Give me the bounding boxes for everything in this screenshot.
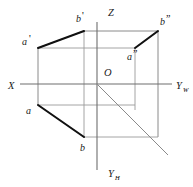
origin-label: O	[104, 67, 112, 78]
x-axis-label: X	[7, 80, 15, 91]
vertex-label-a-double-prime-mark: ”	[133, 48, 137, 59]
coordinate-axes	[20, 22, 172, 170]
vertex-label-a-prime-mark: '	[29, 33, 31, 44]
descriptive-geometry-figure: X Z Y W Y H O a ' b ' b ” a ” a	[0, 0, 193, 187]
vertex-label-a-double-prime-letter: a	[127, 51, 132, 62]
vertex-label-b-prime: b '	[76, 10, 84, 24]
yw-axis-label-group: Y W	[176, 80, 189, 93]
vertex-label-b-prime-mark: '	[82, 10, 84, 21]
yw-axis-subscript: W	[183, 86, 189, 93]
vertex-label-a-double-prime: a ”	[127, 48, 137, 62]
yh-axis-label-group: Y H	[108, 168, 120, 181]
profile-projection-ab	[135, 31, 158, 48]
vertex-label-b-horizontal: b	[80, 142, 85, 153]
geometry-canvas: X Z Y W Y H O a ' b ' b ” a ” a	[0, 0, 193, 187]
yh-axis-subscript: H	[114, 174, 120, 181]
yw-axis-label: Y	[176, 80, 183, 91]
vertex-label-b-double-prime-mark: ”	[166, 13, 170, 24]
vertex-label-a-prime-letter: a	[22, 36, 27, 47]
z-axis-label: Z	[108, 7, 114, 18]
vertex-label-b-double-prime-letter: b	[160, 16, 165, 27]
vertex-label-a-horizontal: a	[26, 105, 31, 116]
vertex-label-b-double-prime: b ”	[160, 13, 170, 27]
forty-five-degree-bisector	[97, 84, 168, 155]
horizontal-projection-ab	[38, 105, 84, 137]
vertex-label-a-prime: a '	[22, 33, 31, 47]
frontal-projection-ab	[38, 31, 84, 48]
yh-axis-label: Y	[108, 168, 115, 179]
vertex-label-b-prime-letter: b	[76, 13, 81, 24]
